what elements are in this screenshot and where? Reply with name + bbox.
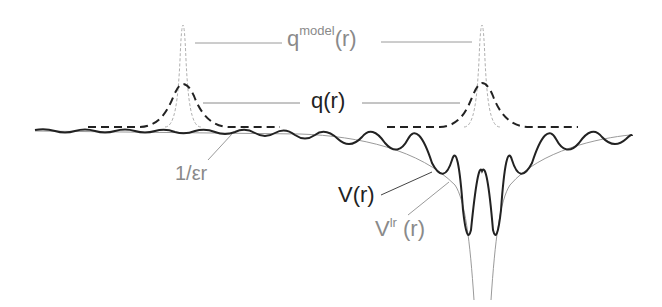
V-label: V(r): [338, 184, 375, 206]
q-model-left-curve: [165, 25, 201, 127]
q-right-curve: [387, 83, 578, 127]
potential-V-curve: [35, 129, 632, 235]
V-lr-base: V: [375, 216, 390, 241]
coulomb-curve: [35, 131, 630, 300]
q-model-base: q: [287, 26, 299, 51]
q-model-sup: model: [299, 23, 334, 38]
V-leader: [381, 172, 432, 195]
q-left-curve: [88, 84, 280, 127]
V-lr-leader: [408, 182, 449, 215]
q-label: q(r): [311, 90, 345, 112]
q-model-label: qmodel(r): [287, 28, 357, 50]
V-lr-sup: lr: [390, 215, 397, 230]
q-model-right-curve: [464, 25, 500, 127]
coulomb-label: 1/εr: [175, 163, 207, 183]
V-lr-arg: (r): [397, 216, 425, 241]
coulomb-leader: [208, 134, 232, 160]
q-model-arg: (r): [335, 26, 357, 51]
V-lr-label: Vlr (r): [375, 218, 425, 240]
